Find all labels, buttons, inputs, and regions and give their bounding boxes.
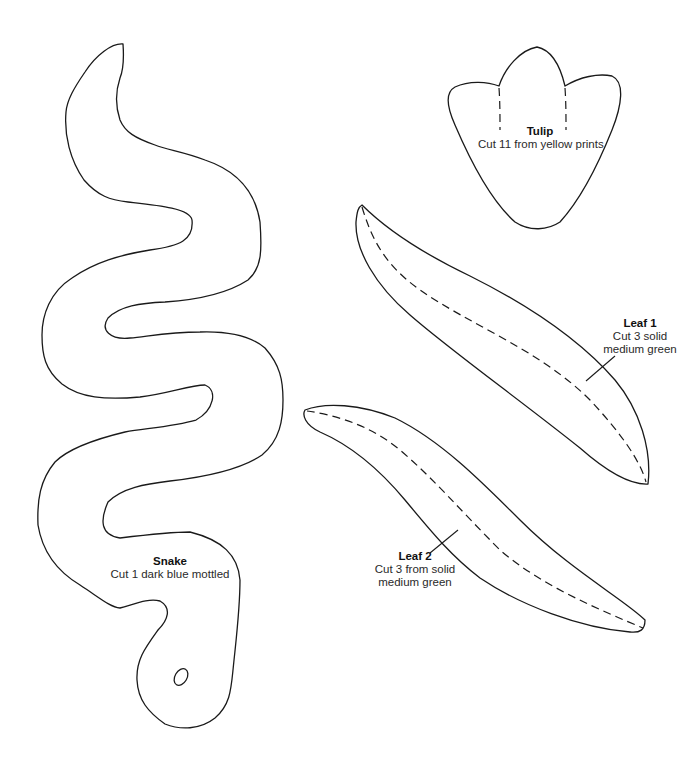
leaf1-title: Leaf 1 xyxy=(590,317,690,330)
leaf1-instruction-line2: medium green xyxy=(590,343,690,356)
tulip-label: Tulip Cut 11 from yellow prints xyxy=(478,125,602,151)
snake-instruction: Cut 1 dark blue mottled xyxy=(105,568,235,581)
leaf1-instruction-line1: Cut 3 solid xyxy=(590,330,690,343)
leaf1-label: Leaf 1 Cut 3 solid medium green xyxy=(590,317,690,356)
leaf2-instruction-line1: Cut 3 from solid xyxy=(370,563,460,576)
snake-label: Snake Cut 1 dark blue mottled xyxy=(105,555,235,581)
snake-title: Snake xyxy=(105,555,235,568)
leaf2-instruction-line2: medium green xyxy=(370,576,460,589)
snake-shape xyxy=(38,44,283,728)
tulip-instruction: Cut 11 from yellow prints xyxy=(478,138,602,151)
applique-pattern-sheet xyxy=(0,0,694,771)
tulip-title: Tulip xyxy=(478,125,602,138)
leaf2-title: Leaf 2 xyxy=(370,550,460,563)
leaf2-label: Leaf 2 Cut 3 from solid medium green xyxy=(370,550,460,589)
snake-outline xyxy=(38,44,283,728)
